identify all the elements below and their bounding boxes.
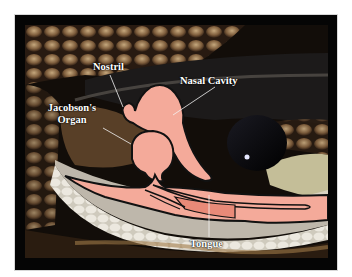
image-frame: Nostril Nasal Cavity Jacobson's Organ To… [15,15,337,270]
label-nasal-cavity: Nasal Cavity [180,75,237,87]
label-tongue: Tongue [190,238,223,250]
label-jacobsons-organ-line2: Organ [37,114,107,126]
label-jacobsons-organ-line1: Jacobson's [37,102,107,114]
label-nostril: Nostril [93,61,124,73]
anatomy-illustration [25,25,328,258]
label-jacobsons-organ: Jacobson's Organ [37,102,107,126]
snake-photo: Nostril Nasal Cavity Jacobson's Organ To… [25,25,328,258]
